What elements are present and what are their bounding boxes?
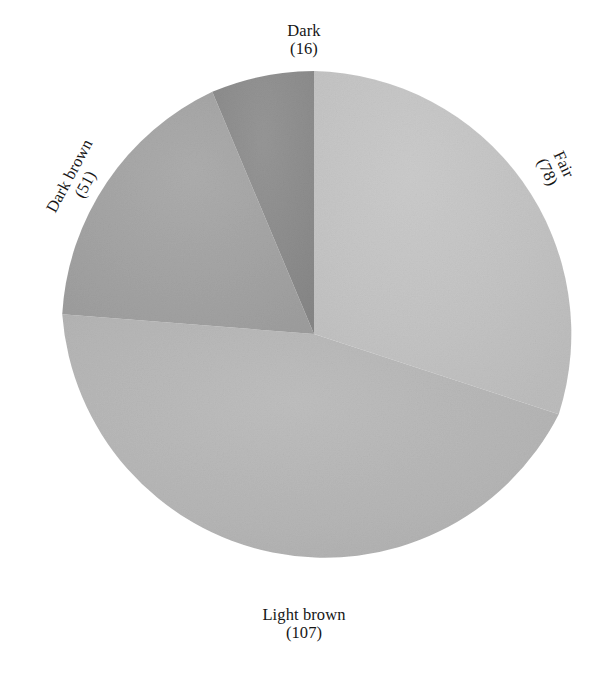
- pie-chart-figure: Dark (16) Light brown (107) Fair (78) Da…: [0, 0, 608, 680]
- pie-chart-canvas: [0, 0, 608, 680]
- pie-slices-group: [62, 71, 571, 558]
- pie-label-light-brown-name: Light brown: [0, 606, 608, 624]
- pie-label-light-brown: Light brown (107): [0, 606, 608, 643]
- pie-label-dark: Dark (16): [0, 22, 608, 59]
- pie-label-light-brown-value: (107): [0, 624, 608, 642]
- pie-label-dark-value: (16): [0, 40, 608, 58]
- pie-label-dark-name: Dark: [0, 22, 608, 40]
